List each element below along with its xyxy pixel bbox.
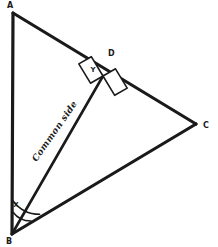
right-angle-square-right-icon (103, 69, 127, 96)
segment-bd-common-side (12, 76, 103, 234)
angle-label-y: Y (89, 66, 96, 74)
vertex-label-b: B (6, 237, 12, 246)
vertex-label-a: A (7, 1, 14, 10)
figure-canvas: A B C D X Y Common side (0, 0, 218, 247)
segment-ac (13, 13, 196, 124)
angle-label-x: X (13, 201, 19, 209)
geometry-figure: A B C D X Y Common side (0, 0, 218, 247)
vertex-label-d: D (108, 49, 115, 58)
segment-bc (12, 124, 196, 234)
vertex-label-c: C (203, 121, 209, 130)
